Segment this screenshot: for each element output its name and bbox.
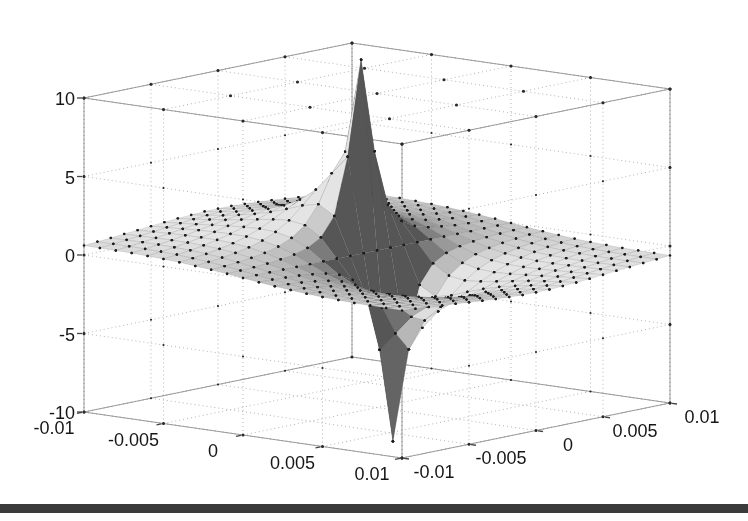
bottom-rule-bar (0, 504, 748, 513)
figure-page: -0.01-0.00500.0050.01-0.01-0.00500.0050.… (0, 0, 748, 521)
surface-plot-canvas (0, 0, 748, 521)
surface-plot: -0.01-0.00500.0050.01-0.01-0.00500.0050.… (0, 0, 748, 521)
